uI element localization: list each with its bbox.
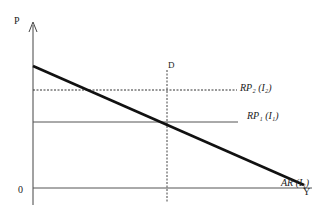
origin-label: 0 bbox=[18, 184, 23, 195]
rp1-label: RP₁ (I₁) bbox=[247, 110, 279, 121]
d-label: D bbox=[168, 60, 175, 70]
y-axis-label: P bbox=[14, 15, 20, 26]
x-axis-label: Y bbox=[303, 186, 310, 197]
rp2-label: RP₂ (I₂) bbox=[240, 82, 272, 93]
